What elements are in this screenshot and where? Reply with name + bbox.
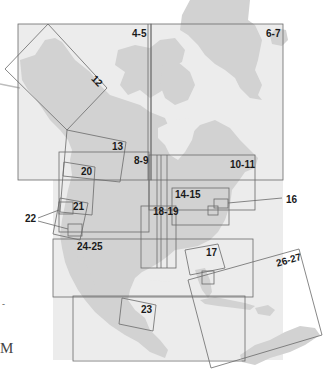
map-index: 4-5 6-7 12 13 8-9 10-11 20 14-15 16 21 2… [0,0,324,373]
margin-dash: - [2,299,5,309]
label-6-7: 6-7 [266,28,281,39]
label-23: 23 [141,304,153,315]
aleutians [0,84,20,88]
label-4-5: 4-5 [132,28,147,39]
label-16: 16 [286,194,298,205]
label-24-25: 24-25 [77,241,103,252]
label-13: 13 [112,141,124,152]
label-21: 21 [73,201,85,212]
label-18-19: 18-19 [153,206,179,217]
label-8-9: 8-9 [134,155,149,166]
margin-letter: M [0,340,13,357]
label-22: 22 [25,213,37,224]
label-20: 20 [81,166,93,177]
label-14-15: 14-15 [175,189,201,200]
label-10-11: 10-11 [230,159,255,170]
label-17: 17 [206,247,218,258]
